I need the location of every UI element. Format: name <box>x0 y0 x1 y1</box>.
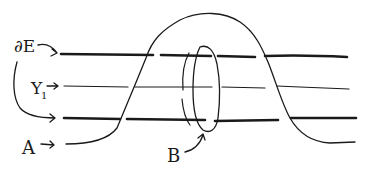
boundary-top-strand <box>61 54 347 57</box>
label-boundary: ∂E <box>14 36 35 56</box>
loop-b <box>193 46 219 131</box>
label-a: A <box>21 137 36 158</box>
y1-arrow-icon <box>47 83 58 89</box>
boundary-arrow-icon <box>38 44 57 56</box>
y1-strand <box>64 86 349 89</box>
b-arrow-icon <box>185 134 205 152</box>
a-arrow-icon <box>41 141 54 148</box>
boundary-bottom-strand <box>64 118 356 121</box>
diagram-svg: ∂E Y 1 A B <box>0 0 368 172</box>
label-y-subscript: 1 <box>41 90 47 101</box>
arc-a <box>66 13 355 144</box>
loop-b-back-arc <box>182 53 190 125</box>
label-b: B <box>167 145 180 166</box>
diagram-canvas: ∂E Y 1 A B <box>0 0 368 172</box>
